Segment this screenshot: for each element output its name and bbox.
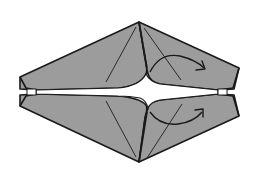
upper-half <box>20 22 239 90</box>
upper-right-flap <box>139 22 239 90</box>
lower-right-flap <box>139 94 239 162</box>
diagram-canvas <box>0 0 257 178</box>
left-notch <box>27 89 36 95</box>
lower-left-flap <box>20 94 147 162</box>
origami-diagram: Hexagonal folded paper model with a cent… <box>0 0 257 178</box>
lower-half <box>20 94 239 162</box>
upper-left-flap <box>20 22 147 90</box>
right-notch <box>218 89 227 95</box>
